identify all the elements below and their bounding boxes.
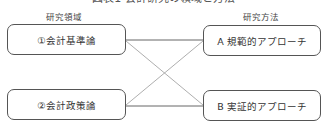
area-box-accounting-policy: ②会計政策論 bbox=[7, 89, 126, 120]
area-label: ②会計政策論 bbox=[37, 98, 96, 112]
method-box-positive: B 実証的アプローチ bbox=[203, 90, 321, 121]
area-box-accounting-standards: ①会計基準論 bbox=[7, 24, 126, 55]
method-label: B 実証的アプローチ bbox=[217, 99, 307, 113]
area-label: ①会計基準論 bbox=[37, 33, 96, 47]
method-box-normative: A 規範的アプローチ bbox=[203, 25, 321, 56]
method-label: A 規範的アプローチ bbox=[217, 34, 307, 48]
